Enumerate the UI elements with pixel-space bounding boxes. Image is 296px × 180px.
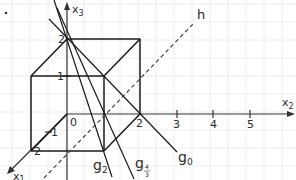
- h-label: h: [197, 7, 205, 22]
- x3-tick-1: 1: [57, 70, 64, 83]
- x3-arrow-icon: [64, 2, 70, 10]
- x2-tick-3: 3: [173, 118, 180, 131]
- background-grid: [0, 0, 296, 180]
- g4-3-sub-num: 4: [145, 163, 149, 170]
- axes: [10, 5, 290, 180]
- x3-tick-2: 2: [58, 33, 65, 46]
- x3-label: x3: [72, 3, 84, 18]
- labels: x3 x2 x1 2 1 0 2 3 4 5 1 2 g2 g 4 3 g0 h: [13, 3, 294, 180]
- g4-3-sub-den: 3: [145, 171, 149, 178]
- g4-3-label: g: [135, 155, 144, 171]
- x2-tick-5: 5: [247, 118, 254, 131]
- point-marker: [5, 12, 8, 15]
- g2-label: g2: [93, 157, 108, 175]
- x1-tick-1: 1: [51, 126, 58, 139]
- g0-label: g0: [178, 149, 193, 167]
- x2-label: x2: [282, 96, 294, 111]
- x1-tick-2: 2: [34, 145, 41, 158]
- origin-label: 0: [70, 116, 77, 129]
- coordinate-diagram: x3 x2 x1 2 1 0 2 3 4 5 1 2 g2 g 4 3 g0 h: [0, 0, 296, 180]
- x2-tick-4: 4: [210, 118, 217, 131]
- x2-tick-2: 2: [136, 117, 143, 130]
- x1-label: x1: [13, 170, 25, 180]
